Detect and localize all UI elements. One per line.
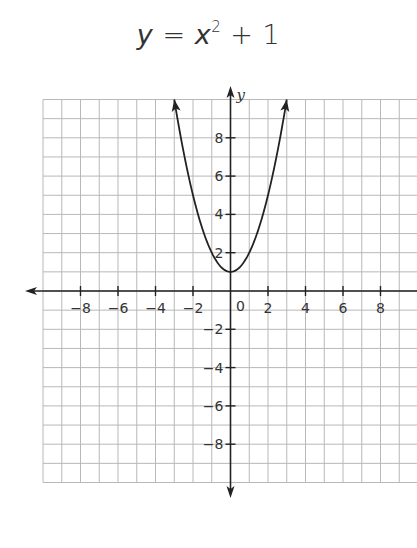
y-tick-label: 6	[215, 168, 224, 184]
y-tick-label: −6	[203, 398, 224, 414]
x-tick-label: 4	[301, 300, 310, 316]
x-tick-label: 8	[376, 300, 385, 316]
origin-label: 0	[236, 298, 245, 314]
y-tick-label: 8	[215, 130, 224, 146]
y-tick-label: −8	[203, 436, 224, 452]
x-tick-label: −2	[183, 300, 204, 316]
y-tick-label: −4	[203, 360, 224, 376]
y-axis-label: y	[236, 86, 246, 104]
x-tick-label: −4	[145, 300, 166, 316]
x-tick-label: 6	[339, 300, 348, 316]
y-tick-label: −2	[203, 321, 224, 337]
x-tick-label: −8	[70, 300, 91, 316]
x-tick-label: −6	[108, 300, 129, 316]
x-tick-label: 2	[264, 300, 273, 316]
coordinate-plane: y −8−6−4−224688642−2−4−6−80	[0, 0, 417, 548]
y-tick-label: 2	[215, 245, 224, 261]
y-tick-label: 4	[215, 206, 224, 222]
